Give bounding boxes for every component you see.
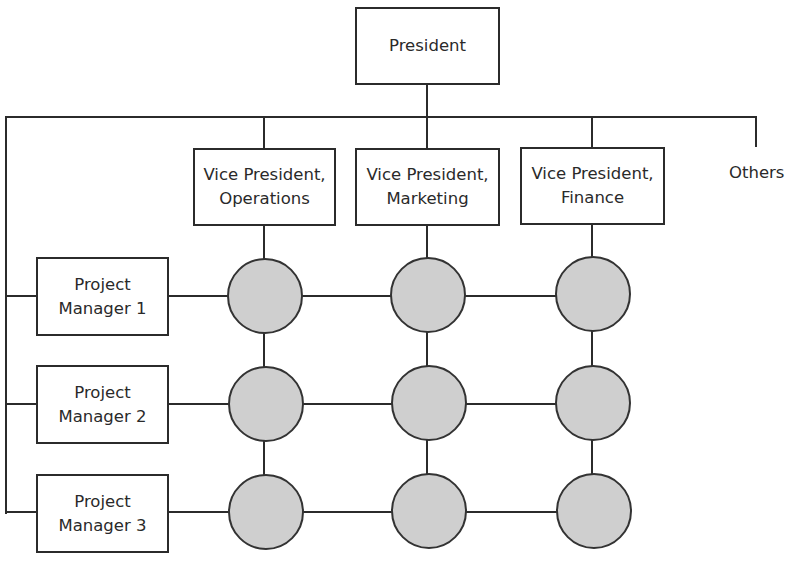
- others-label: Others: [729, 161, 784, 185]
- matrix-node-pm1-finance: [555, 256, 631, 332]
- vp-mkt-drop: [426, 116, 428, 149]
- others-drop: [755, 116, 757, 147]
- matrix-node-pm2-operations: [228, 366, 304, 442]
- vp-marketing-line2: Marketing: [386, 187, 468, 211]
- vp-operations-line1: Vice President,: [203, 163, 325, 187]
- pm1-line2: Manager 1: [58, 297, 146, 321]
- pm2-line1: Project: [74, 381, 130, 405]
- vp-operations-line2: Operations: [219, 187, 310, 211]
- pm2-line2: Manager 2: [58, 405, 146, 429]
- pm3-line2: Manager 3: [58, 514, 146, 538]
- project-manager-2-box: Project Manager 2: [36, 365, 169, 444]
- president-stem: [426, 84, 428, 117]
- top-bus: [5, 116, 757, 118]
- project-manager-3-box: Project Manager 3: [36, 474, 169, 553]
- pm3-line1: Project: [74, 490, 130, 514]
- matrix-node-pm3-finance: [556, 473, 632, 549]
- matrix-node-pm2-finance: [555, 365, 631, 441]
- matrix-node-pm3-operations: [228, 474, 304, 550]
- matrix-node-pm3-marketing: [391, 473, 467, 549]
- matrix-node-pm2-marketing: [391, 365, 467, 441]
- vp-marketing-line1: Vice President,: [366, 163, 488, 187]
- pm1-line1: Project: [74, 273, 130, 297]
- vp-finance-line2: Finance: [561, 186, 624, 210]
- vp-operations-box: Vice President, Operations: [193, 148, 336, 226]
- matrix-node-pm1-marketing: [390, 257, 466, 333]
- matrix-org-chart: President Vice President, Operations Vic…: [0, 0, 793, 566]
- president-box: President: [355, 7, 500, 85]
- vp-ops-drop: [263, 116, 265, 149]
- vp-marketing-box: Vice President, Marketing: [355, 148, 500, 226]
- matrix-node-pm1-operations: [227, 258, 303, 334]
- vp-finance-box: Vice President, Finance: [520, 147, 665, 225]
- vp-finance-line1: Vice President,: [531, 162, 653, 186]
- president-label: President: [389, 34, 466, 58]
- left-bus: [5, 116, 7, 514]
- project-manager-1-box: Project Manager 1: [36, 257, 169, 336]
- vp-fin-drop: [591, 116, 593, 149]
